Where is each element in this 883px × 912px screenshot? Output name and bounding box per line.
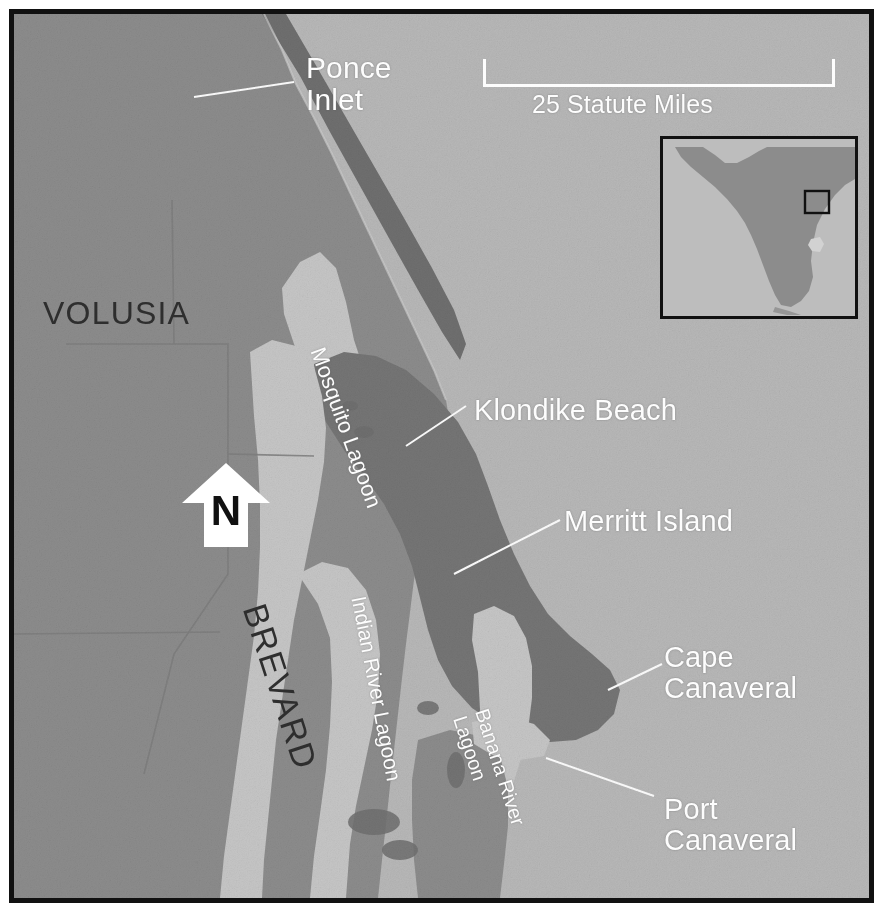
north-arrow-letter: N bbox=[180, 487, 272, 535]
label-cape-canaveral: CapeCanaveral bbox=[664, 642, 797, 703]
map-figure: 25 Statute Miles N PonceInlet VOLUSIA Kl… bbox=[0, 0, 883, 912]
label-cape-canaveral-line1: Cape bbox=[664, 641, 734, 673]
north-arrow: N bbox=[180, 461, 272, 549]
label-ponce-inlet-line1: Ponce bbox=[306, 51, 392, 84]
label-ponce-inlet: PonceInlet bbox=[306, 52, 392, 116]
scale-bar-label: 25 Statute Miles bbox=[532, 91, 713, 118]
inset-locator-map bbox=[660, 136, 858, 319]
scale-bar bbox=[483, 59, 835, 87]
label-county-volusia: VOLUSIA bbox=[43, 297, 190, 331]
label-merritt-island: Merritt Island bbox=[564, 506, 733, 537]
label-ponce-inlet-line2: Inlet bbox=[306, 83, 363, 116]
inset-map-geometry bbox=[663, 139, 855, 316]
label-port-canaveral-line1: Port bbox=[664, 793, 718, 825]
label-port-canaveral-line2: Canaveral bbox=[664, 824, 797, 856]
label-klondike-beach: Klondike Beach bbox=[474, 395, 677, 426]
label-cape-canaveral-line2: Canaveral bbox=[664, 672, 797, 704]
label-port-canaveral: PortCanaveral bbox=[664, 794, 797, 855]
map-frame: 25 Statute Miles N PonceInlet VOLUSIA Kl… bbox=[9, 9, 874, 903]
